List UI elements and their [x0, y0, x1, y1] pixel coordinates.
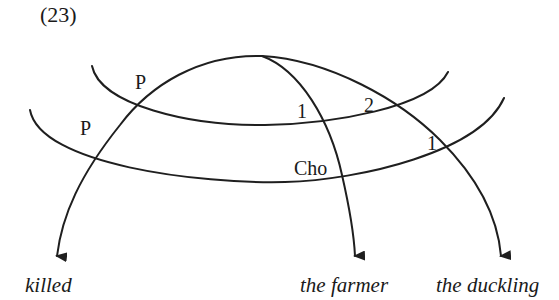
lower-band-label-cho: Cho	[294, 158, 327, 178]
target-the-duckling: the duckling	[436, 275, 539, 296]
upper-band-label-1: 1	[297, 101, 307, 121]
dependency-diagram	[0, 0, 559, 300]
target-killed: killed	[25, 275, 72, 296]
lower-band-label-p: P	[80, 118, 91, 138]
arrow-to-the-farmer	[262, 56, 355, 256]
upper-band-label-p: P	[135, 72, 146, 92]
lower-band-label-1: 1	[427, 133, 437, 153]
arrow-to-the-duckling	[262, 56, 501, 256]
upper-band-label-2: 2	[364, 95, 374, 115]
target-the-farmer: the farmer	[300, 275, 388, 296]
